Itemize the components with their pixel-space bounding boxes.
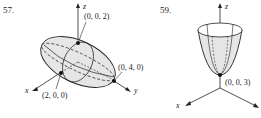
diagram-canvas: 57. z x y (0, 0, 2) (0, 4, 0) (2, 0, 0) …: [0, 0, 261, 118]
point-label-0-4-0: (0, 4, 0): [118, 63, 144, 72]
figure-59: 59. z (0, 0, 3) x: [160, 2, 259, 110]
x-arrow-icon: [32, 87, 38, 91]
leader-line: [78, 22, 86, 43]
x-axis-label: x: [24, 86, 29, 95]
y-axis-label: y: [133, 86, 138, 95]
point-label-0-0-3: (0, 0, 3): [225, 78, 251, 87]
point-0-0-3: [218, 73, 222, 77]
z-arrow-icon: [76, 3, 80, 8]
point-label-0-0-2: (0, 0, 2): [84, 12, 110, 21]
z-axis-label: z: [224, 2, 229, 11]
x-arrow-icon: [185, 101, 191, 106]
y-arrow-icon: [125, 87, 131, 92]
y-axis: [220, 88, 256, 106]
paraboloid-rim: [198, 23, 242, 37]
point-label-2-0-0: (2, 0, 0): [42, 91, 68, 100]
y-arrow-icon: [253, 103, 259, 108]
z-axis-label: z: [82, 2, 87, 11]
z-arrow-icon: [218, 3, 222, 8]
figure-number-59: 59.: [160, 5, 171, 15]
x-axis: [34, 73, 60, 90]
x-axis-label: x: [175, 101, 180, 110]
figure-57: 57. z x y (0, 0, 2) (0, 4, 0) (2, 0, 0): [3, 2, 144, 100]
figure-number-57: 57.: [3, 5, 14, 15]
x-axis: [188, 88, 220, 104]
